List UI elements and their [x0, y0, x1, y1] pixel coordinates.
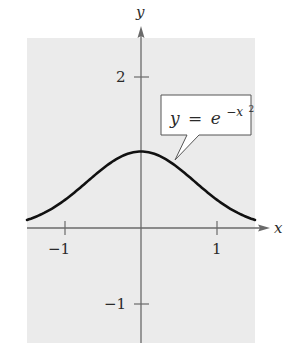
callout-y: y	[169, 108, 180, 128]
y-axis-label: y	[135, 3, 145, 21]
y-tick-label-2: 2	[116, 68, 126, 86]
callout-exponent: −x	[226, 105, 243, 119]
callout-equals: =	[188, 108, 202, 128]
function-graph: x y −1 1 2 −1 y = e −x 2	[0, 0, 285, 362]
x-axis-label: x	[274, 219, 283, 237]
x-tick-label-neg1: −1	[48, 240, 70, 258]
x-tick-label-pos1: 1	[212, 240, 222, 258]
y-tick-label-neg1: −1	[104, 295, 126, 313]
callout-exponent-power: 2	[248, 104, 254, 114]
callout-e: e	[211, 108, 221, 128]
